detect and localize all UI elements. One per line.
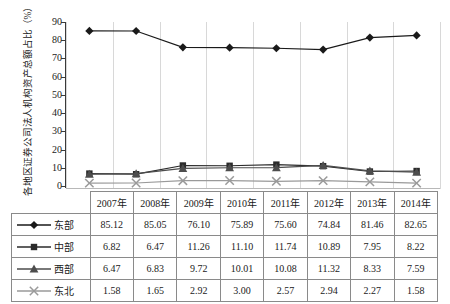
table-cell: 11.10 [220,236,263,258]
diamond-marker-icon [14,218,54,232]
table-column-header: 2010年 [220,192,263,214]
series-东部 [85,27,420,54]
data-point-marker [226,44,234,52]
table-cell: 75.89 [220,214,263,236]
legend-row-header-西部: 西部 [12,258,91,280]
legend-label: 中部 [54,239,74,254]
y-axis-tick-mark [61,113,65,114]
chart-figure: 各地区证券公司法人机构资产总额占比（%） 9080706050403020100… [0,0,450,304]
table-cell: 1.58 [90,280,133,302]
table-cell: 2.57 [264,280,307,302]
table-column-header: 2009年 [177,192,220,214]
table-row: 东部85.1285.0576.1075.8975.6074.8481.4682.… [12,214,438,236]
y-axis-tick-label: 70 [42,53,62,63]
y-axis-tick-label: 90 [42,17,62,27]
legend-row-header-东部: 东部 [12,214,91,236]
series-西部 [85,161,421,178]
table-cell: 8.22 [394,236,437,258]
y-axis-tick-mark [61,131,65,132]
plot-area [66,22,440,189]
table-cell: 2.94 [307,280,350,302]
data-point-marker [366,33,374,41]
table-corner-cell [12,192,91,214]
y-axis-tick-mark [61,58,65,59]
series-lines [66,22,440,189]
legend-label: 东北 [54,283,74,298]
table-cell: 82.65 [394,214,437,236]
y-axis-tick-mark [61,77,65,78]
y-axis-tick-label: 20 [42,145,62,155]
table-cell: 2.92 [177,280,220,302]
data-table: 2007年 2008年 2009年 2010年 2011年 2012年 2013… [11,191,438,302]
table-cell: 1.58 [394,280,437,302]
legend-label: 西部 [54,261,74,276]
y-axis-tick-mark [61,22,65,23]
table-cell: 1.65 [134,280,177,302]
y-axis-tick-labels: 9080706050403020100 [42,16,62,192]
plot-region: 9080706050403020100 [42,16,440,192]
cross-marker-icon [14,284,54,298]
table-cell: 3.00 [220,280,263,302]
table-cell: 10.01 [220,258,263,280]
table-cell: 75.60 [264,214,307,236]
y-axis-tick-label: 10 [42,163,62,173]
table-cell: 81.46 [351,214,394,236]
y-axis-tick-label: 40 [42,108,62,118]
data-point-marker [85,27,93,35]
table-column-header: 2013年 [351,192,394,214]
table-cell: 85.12 [90,214,133,236]
data-point-marker [319,46,327,54]
x-axis-baseline [66,188,440,189]
legend-row-header-中部: 中部 [12,236,91,258]
data-point-marker [179,43,187,51]
table-cell: 7.95 [351,236,394,258]
table-cell: 6.47 [90,258,133,280]
triangle-marker-icon [14,262,54,276]
y-axis-tick-label: 0 [42,181,62,191]
table-cell: 2.27 [351,280,394,302]
table-cell: 10.89 [307,236,350,258]
table-cell: 11.26 [177,236,220,258]
vertical-gridline [440,22,441,189]
table-row: 东北1.581.652.923.002.572.942.271.58 [12,280,438,302]
data-point-marker [413,31,421,39]
legend-row-header-东北: 东北 [12,280,91,302]
y-axis-tick-mark [61,168,65,169]
data-point-marker [132,27,140,35]
table-cell: 10.08 [264,258,307,280]
y-axis-tick-mark [61,95,65,96]
table-cell: 6.47 [134,236,177,258]
y-axis-tick-label: 30 [42,126,62,136]
table-cell: 6.83 [134,258,177,280]
table-cell: 85.05 [134,214,177,236]
y-axis-tick-mark [61,150,65,151]
table-column-header: 2008年 [134,192,177,214]
table-cell: 7.59 [394,258,437,280]
y-axis-tick-label: 50 [42,90,62,100]
table-column-header: 2011年 [264,192,307,214]
table-column-header: 2014年 [394,192,437,214]
y-axis-tick-mark [61,40,65,41]
table-cell: 11.74 [264,236,307,258]
y-axis-tick-mark [61,186,65,187]
series-东北 [85,176,421,187]
data-point-marker [272,44,280,52]
legend-label: 东部 [54,217,74,232]
table-cell: 6.82 [90,236,133,258]
series-line [89,31,416,50]
table-header-row: 2007年 2008年 2009年 2010年 2011年 2012年 2013… [12,192,438,214]
table-cell: 9.72 [177,258,220,280]
y-axis-title-text: 各地区证券公司法人机构资产总额占比（%） [24,2,34,196]
y-axis-tick-label: 80 [42,35,62,45]
table-cell: 8.33 [351,258,394,280]
table-cell: 76.10 [177,214,220,236]
table-row: 中部6.826.4711.2611.1011.7410.897.958.22 [12,236,438,258]
table-column-header: 2012年 [307,192,350,214]
table-column-header: 2007年 [90,192,133,214]
square-marker-icon [14,240,54,254]
y-axis-tick-label: 60 [42,72,62,82]
table-cell: 74.84 [307,214,350,236]
table-row: 西部6.476.839.7210.0110.0811.328.337.59 [12,258,438,280]
y-axis-title: 各地区证券公司法人机构资产总额占比（%） [18,8,40,190]
table-cell: 11.32 [307,258,350,280]
